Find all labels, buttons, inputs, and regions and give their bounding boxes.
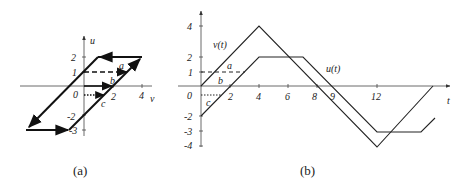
y-tick: 2 <box>187 52 192 63</box>
y-tick: 2 <box>71 52 76 63</box>
label-c: c <box>206 97 211 108</box>
x-tick: 4 <box>256 91 261 102</box>
panel-b: 4 2 1 0 -2 -3 -4 2 4 6 8 9 12 t v(t) u(t… <box>178 11 450 178</box>
panel-a: u v 2 1 0 -2 -3 2 4 a b c (a) <box>20 35 155 178</box>
y-tick: 0 <box>187 90 192 101</box>
y-tick: 0 <box>73 89 78 100</box>
x-tick: 4 <box>139 90 144 101</box>
x-tick: 8 <box>312 91 317 102</box>
figure: u v 2 1 0 -2 -3 2 4 a b c (a) <box>0 0 474 188</box>
v-axis-label: v <box>150 93 155 104</box>
label-a: a <box>119 60 124 71</box>
y-tick: -3 <box>69 125 77 136</box>
label-a: a <box>227 60 232 71</box>
y-tick: 1 <box>72 67 77 78</box>
caption-a: (a) <box>73 163 87 178</box>
t-axis-label: t <box>447 95 450 106</box>
y-tick: -3 <box>184 126 192 137</box>
caption-b: (b) <box>300 163 315 178</box>
u-axis-label: u <box>90 35 95 46</box>
label-b: b <box>218 75 223 86</box>
x-tick: 2 <box>228 91 233 102</box>
x-tick: 9 <box>330 91 335 102</box>
v-curve-label: v(t) <box>213 39 228 51</box>
label-c: c <box>101 98 106 109</box>
u-curve-label: u(t) <box>326 63 341 75</box>
y-tick: -2 <box>67 111 75 122</box>
u-curve <box>201 57 435 132</box>
y-tick: -2 <box>184 111 192 122</box>
y-tick: -4 <box>184 140 192 151</box>
y-tick: 4 <box>187 21 192 32</box>
label-b: b <box>110 75 115 86</box>
x-tick: 12 <box>371 91 381 102</box>
x-tick: 2 <box>111 91 116 102</box>
y-tick: 1 <box>188 67 193 78</box>
x-tick: 6 <box>285 91 290 102</box>
